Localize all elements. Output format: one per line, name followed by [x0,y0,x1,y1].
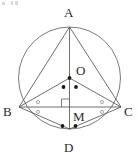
vertex-label-M: M [73,110,85,123]
vertex-label-B: B [3,105,12,118]
tick-center-O [68,76,72,80]
geometry-figure: ABCDOM [0,0,139,163]
vertex-label-D: D [64,141,73,154]
segment-AB [19,27,70,107]
tick-DC [74,124,78,128]
angle-B-upper [37,101,40,104]
geometry-canvas [0,0,139,163]
speck-3 [15,1,18,5]
vertex-label-O: O [76,64,85,77]
vertex-label-A: A [64,6,73,19]
angle-C-lower [101,111,104,114]
vertex-label-C: C [124,105,133,118]
right-angle-marker-group [62,99,70,107]
tick-OC [74,85,78,89]
angle-B-lower [37,111,40,114]
speck-2 [11,1,13,5]
segment-OC [70,78,122,107]
segment-BO [19,78,70,107]
tick-OB [62,85,66,89]
tick-DB [61,124,65,128]
speck-1 [2,2,5,5]
right-angle-M [62,99,70,107]
angle-C-upper [101,101,104,104]
